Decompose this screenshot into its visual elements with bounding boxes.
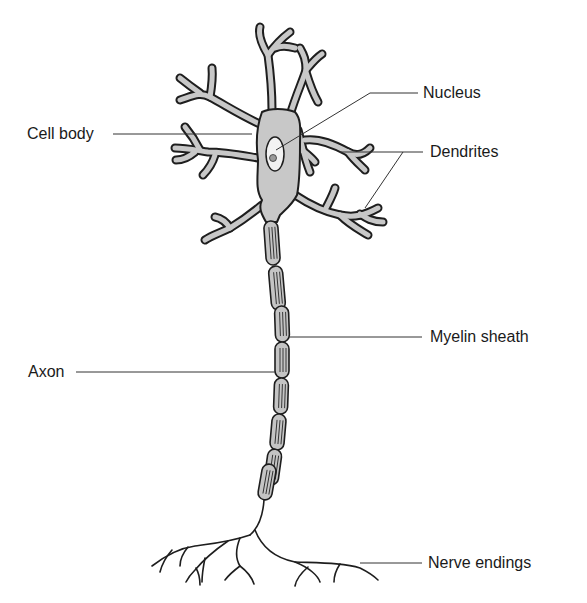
nerve-endings: [152, 500, 378, 586]
dendrites-leader-2: [365, 152, 403, 208]
myelin-sheath-label: Myelin sheath: [430, 328, 529, 346]
neuron-illustration: [0, 0, 587, 603]
nucleus-shape: [266, 137, 284, 171]
nucleus-label: Nucleus: [423, 84, 481, 102]
dendrites-label: Dendrites: [430, 143, 498, 161]
axon: [257, 221, 290, 501]
nucleolus-shape: [270, 155, 277, 162]
myelin-sheath: [257, 221, 290, 501]
nerve-endings-label: Nerve endings: [428, 554, 531, 572]
neuron-diagram: Nucleus Cell body Dendrites Myelin sheat…: [0, 0, 587, 603]
axon-label: Axon: [28, 363, 64, 381]
leader-lines: [76, 93, 423, 563]
cell-body-label: Cell body: [27, 125, 94, 143]
